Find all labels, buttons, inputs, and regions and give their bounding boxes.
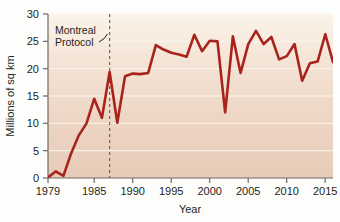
x-axis-ticks <box>48 178 325 183</box>
y-tick-label-20: 20 <box>27 63 39 75</box>
y-axis-ticks <box>43 14 48 178</box>
chart-canvas: 30 25 20 15 10 5 0 Millions of sq km 197… <box>0 0 340 222</box>
x-axis-title: Year <box>179 203 202 215</box>
x-tick-label-2015: 2015 <box>313 185 337 197</box>
x-tick-label-2005: 2005 <box>236 185 260 197</box>
y-tick-label-30: 30 <box>27 8 39 20</box>
x-tick-label-1979: 1979 <box>36 185 60 197</box>
x-tick-label-1995: 1995 <box>159 185 183 197</box>
y-axis-title: Millions of sq km <box>4 55 16 136</box>
ozone-hole-area-chart: 30 25 20 15 10 5 0 Millions of sq km 197… <box>0 0 340 222</box>
y-tick-label-0: 0 <box>33 172 39 184</box>
y-tick-label-15: 15 <box>27 90 39 102</box>
y-tick-label-5: 5 <box>33 145 39 157</box>
annotation-label-line2: Protocol <box>55 36 94 48</box>
x-tick-label-1985: 1985 <box>82 185 106 197</box>
x-tick-label-2000: 2000 <box>197 185 221 197</box>
x-tick-label-1990: 1990 <box>120 185 144 197</box>
annotation-label-line1: Montreal <box>55 24 96 36</box>
x-tick-label-2010: 2010 <box>274 185 298 197</box>
y-tick-label-25: 25 <box>27 35 39 47</box>
y-tick-label-10: 10 <box>27 117 39 129</box>
